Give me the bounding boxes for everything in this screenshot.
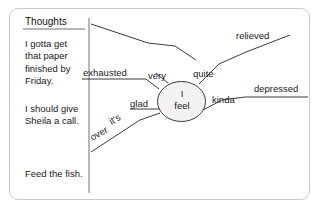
i-feel-line-2: feel — [158, 100, 206, 112]
thoughts-column-header: Thoughts — [25, 16, 67, 27]
label-relieved: relieved — [236, 30, 269, 42]
diagram-canvas: Thoughts I gotta get that paper finished… — [0, 0, 327, 217]
thought-item: I should give Sheila a call. — [25, 103, 83, 128]
label-very: very — [148, 70, 166, 82]
label-depressed: depressed — [254, 83, 298, 95]
thought-item: Feed the fish. — [25, 168, 83, 180]
thought-item: I gotta get that paper finished by Frida… — [25, 38, 83, 88]
label-quite: quite — [193, 68, 214, 80]
i-feel-line-1: I — [158, 88, 206, 100]
label-glad: glad — [130, 98, 148, 110]
branch-line-top — [91, 24, 196, 60]
label-exhausted: exhausted — [83, 67, 127, 79]
label-kinda: kinda — [212, 94, 235, 106]
i-feel-label: I feel — [158, 88, 206, 112]
